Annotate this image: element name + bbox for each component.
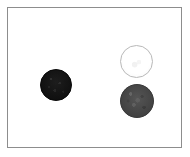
dark-circle-marker (40, 69, 72, 101)
figure-canvas (0, 0, 190, 157)
light-circle-marker (120, 45, 153, 78)
panel-frame (7, 7, 182, 148)
gray-circle-marker (120, 84, 154, 118)
